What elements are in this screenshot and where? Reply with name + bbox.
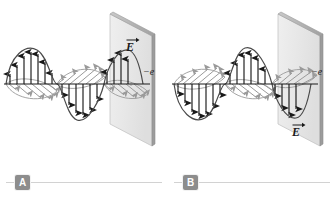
e-label-text-b: E [292, 125, 300, 139]
panel-b-diagram [168, 0, 336, 165]
vector-arrow-accent-icon [126, 37, 140, 42]
electron-charge-label-b: −e [311, 67, 322, 77]
electron-marker [129, 82, 132, 85]
vector-arrow-accent-icon [292, 122, 306, 127]
e-label-text-a: E [126, 40, 134, 54]
figure-panel-b: E −e B [168, 0, 336, 198]
panel-a-diagram [0, 0, 168, 165]
figure-root: E −e A [0, 0, 336, 198]
figure-panel-a: E −e A [0, 0, 168, 198]
panel-badge-b: B [183, 175, 198, 190]
e-field-vector-label-b: E [292, 126, 300, 138]
electron-marker [297, 82, 300, 85]
panel-b-caption: B [168, 165, 336, 198]
e-field-vector-label-a: E [126, 41, 134, 53]
panel-a-caption: A [0, 165, 168, 198]
electron-charge-label-a: −e [143, 67, 154, 77]
screen-plate [110, 12, 155, 146]
panel-badge-a: A [15, 175, 30, 190]
